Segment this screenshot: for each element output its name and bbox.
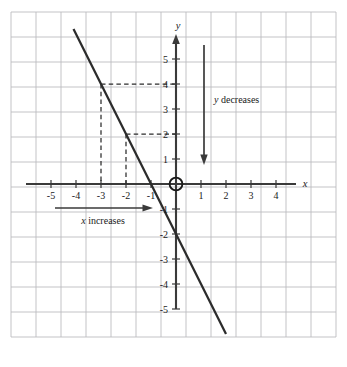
y-tick-label: 2 [163,129,168,140]
x-increases-label: x increases [80,215,125,226]
y-decreases-label-rest: decreases [218,94,259,105]
x-tick-label: -1 [147,190,155,201]
y-tick-label: 5 [163,54,168,65]
x-tick-label: 3 [249,190,254,201]
x-tick-label: -2 [122,190,130,201]
y-tick-label: 1 [163,154,168,165]
x-increases-arrow [55,204,153,211]
y-tick-label: -3 [160,254,168,265]
y-decreases-arrow [200,45,207,165]
y-tick-label: -5 [160,304,168,315]
graph-figure: -5 -4 -3 -2 -1 1 2 3 4 5 4 3 2 1 -1 -2 -… [0,0,347,367]
x-tick-label: -5 [47,190,55,201]
y-tick-label: 3 [163,104,168,115]
y-tick-label: -1 [160,204,168,215]
x-axis-label: x [302,178,308,189]
grid-lines [11,12,336,337]
x-tick-label: 4 [274,190,279,201]
y-tick-label: 4 [163,79,168,90]
x-tick-label: -4 [72,190,80,201]
y-axis-arrowhead [172,34,180,44]
x-tick-labels: -5 -4 -3 -2 -1 1 2 3 4 [47,190,279,201]
y-decreases-label: y decreases [213,94,259,105]
y-axis-label: y [175,20,181,31]
y-tick-label: -2 [160,229,168,240]
x-increases-label-rest: increases [86,215,125,226]
plotted-line [74,29,227,334]
y-tick-label: -4 [160,279,168,290]
x-tick-label: 1 [199,190,204,201]
x-tick-label: 2 [224,190,229,201]
x-tick-label: -3 [97,190,105,201]
